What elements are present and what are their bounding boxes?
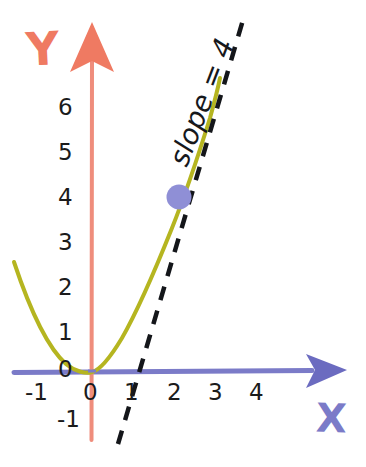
figure-canvas: Y X 6 5 4 3 2 1 0 -1 -1 0 1 2 3 4 slope … [0,0,366,467]
y-tick-label-6: 6 [58,96,73,119]
x-tick-label-2: 2 [167,381,182,404]
y-tick-label-4: 4 [58,186,73,209]
x-tick-label-1: 1 [124,381,139,404]
x-tick-label-0: 0 [83,381,98,404]
x-axis-label: X [315,397,347,438]
y-tick-label-2: 2 [58,276,73,299]
y-axis-label: Y [25,25,61,73]
y-tick-label-1: 1 [58,321,73,344]
x-tick-label-4: 4 [249,381,264,404]
x-tick-label-3: 3 [208,381,223,404]
y-tick-label-5: 5 [58,141,73,164]
y-tick-label-0: 0 [58,358,73,381]
y-tick-label-3: 3 [58,231,73,254]
y-tick-label-neg1: -1 [57,408,80,431]
tangency-point-marker[interactable] [167,185,192,210]
x-tick-label-neg1: -1 [25,381,48,404]
